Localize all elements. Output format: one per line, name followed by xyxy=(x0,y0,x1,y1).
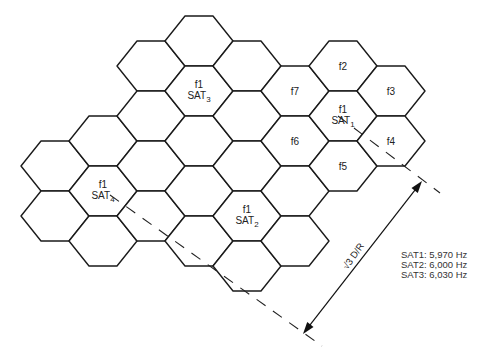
arrowhead-icon xyxy=(303,322,314,334)
cell-frequency-label: f6 xyxy=(291,136,300,147)
legend-item-sat3: SAT3: 6,030 Hz xyxy=(401,270,467,280)
hex-cell-diagram: f1SAT4f1SAT3f1SAT2f7f6f2f1SAT1f5f3f4 √3 … xyxy=(0,0,498,360)
cell-frequency-label: f1 xyxy=(339,104,348,115)
cell-frequency-label: f5 xyxy=(339,161,348,172)
cell-frequency-label: f2 xyxy=(339,61,348,72)
cell-frequency-label: f1 xyxy=(195,79,204,90)
hex-grid xyxy=(21,16,425,291)
cell-frequency-label: f1 xyxy=(99,179,108,190)
arrowhead-icon xyxy=(411,181,422,193)
cell-frequency-label: f3 xyxy=(387,86,396,97)
frequency-legend: SAT1: 5,970 Hz SAT2: 6,000 Hz SAT3: 6,03… xyxy=(401,250,467,280)
dimension-label: √3 D/R xyxy=(340,241,366,272)
cell-frequency-label: f4 xyxy=(387,136,396,147)
cell-frequency-label: f1 xyxy=(243,204,252,215)
cell-frequency-label: f7 xyxy=(291,86,300,97)
